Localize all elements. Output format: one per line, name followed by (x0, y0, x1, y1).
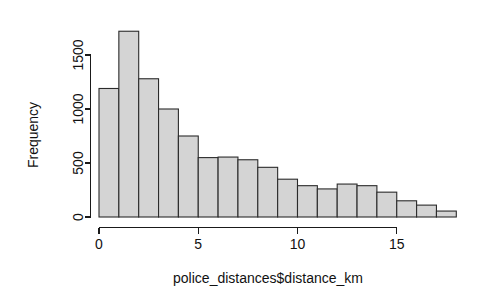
histogram-bar (159, 109, 179, 217)
y-axis-title: Frequency (25, 102, 41, 168)
x-axis (99, 228, 397, 234)
x-axis-title: police_distances$distance_km (173, 270, 363, 286)
histogram-bar (357, 186, 377, 217)
histogram-bar (377, 192, 397, 217)
histogram-bar (99, 88, 119, 217)
y-tick-label: 0 (70, 213, 86, 221)
x-tick-label: 0 (95, 236, 103, 252)
x-tick-label: 10 (290, 236, 306, 252)
histogram-bar (337, 184, 357, 217)
histogram-bar (417, 205, 437, 217)
x-tick-label: 5 (194, 236, 202, 252)
histogram-bar (178, 136, 198, 217)
y-axis (85, 55, 91, 217)
histogram-bar (278, 179, 298, 217)
histogram-plot: 050010001500 051015 Frequency police_dis… (0, 0, 504, 305)
y-tick-labels: 050010001500 (70, 39, 86, 221)
histogram-bar (436, 211, 456, 217)
histogram-bar (119, 31, 139, 217)
histogram-bar (397, 201, 417, 217)
histogram-bar (218, 157, 238, 217)
y-tick-label: 1500 (70, 39, 86, 70)
histogram-bar (298, 186, 318, 217)
bars-group (99, 31, 456, 217)
x-tick-labels: 051015 (95, 236, 405, 252)
plot-canvas: 050010001500 051015 Frequency police_dis… (0, 0, 504, 305)
histogram-bar (198, 158, 218, 217)
histogram-bar (258, 167, 278, 217)
histogram-bar (139, 79, 159, 217)
y-tick-label: 500 (70, 151, 86, 175)
histogram-bar (238, 160, 258, 217)
histogram-bar (317, 189, 337, 217)
x-tick-label: 15 (389, 236, 405, 252)
y-tick-label: 1000 (70, 93, 86, 124)
